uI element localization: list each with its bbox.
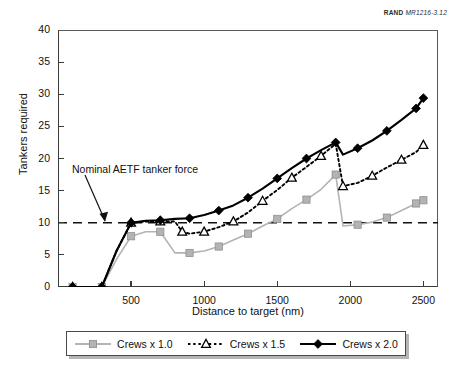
y-tick-mark bbox=[58, 222, 64, 223]
y-tick-label: 20 bbox=[20, 152, 50, 164]
x-tick-mark bbox=[423, 281, 424, 287]
data-marker bbox=[215, 243, 222, 250]
y-tick-label: 30 bbox=[20, 87, 50, 99]
data-marker bbox=[229, 217, 238, 225]
y-tick-label: 15 bbox=[20, 184, 50, 196]
y-tick-mark bbox=[58, 158, 64, 159]
data-marker bbox=[412, 200, 419, 207]
legend-swatch bbox=[299, 338, 337, 350]
x-tick-label: 500 bbox=[101, 294, 161, 306]
y-tick-label: 40 bbox=[20, 23, 50, 35]
y-tick-mark bbox=[58, 94, 64, 95]
x-tick-label: 2500 bbox=[393, 294, 453, 306]
data-marker bbox=[274, 215, 281, 222]
data-marker bbox=[354, 221, 361, 228]
annotation-arrow-head bbox=[100, 212, 109, 222]
y-tick-mark bbox=[58, 190, 64, 191]
data-marker bbox=[214, 206, 223, 215]
data-marker bbox=[353, 144, 362, 153]
data-marker bbox=[157, 228, 164, 235]
legend-item[interactable]: Crews x 1.0 bbox=[74, 338, 172, 350]
chart-legend: Crews x 1.0Crews x 1.5Crews x 2.0 bbox=[66, 331, 406, 356]
data-marker bbox=[186, 249, 193, 256]
data-marker bbox=[383, 214, 390, 221]
y-tick-label: 25 bbox=[20, 119, 50, 131]
credit-code: MR1216-3.12 bbox=[405, 9, 447, 16]
y-tick-label: 5 bbox=[20, 248, 50, 260]
legend-label: Crews x 1.0 bbox=[117, 338, 172, 350]
chart-canvas bbox=[58, 30, 438, 287]
x-tick-mark bbox=[277, 281, 278, 287]
x-tick-mark bbox=[130, 281, 131, 287]
data-marker bbox=[420, 197, 427, 204]
y-tick-mark bbox=[58, 62, 64, 63]
legend-swatch bbox=[187, 338, 225, 350]
x-tick-mark bbox=[204, 281, 205, 287]
series-crews-x-2-0 bbox=[68, 94, 428, 287]
y-tick-mark bbox=[58, 126, 64, 127]
credit-rand: RAND bbox=[384, 9, 404, 16]
x-tick-label: 1500 bbox=[247, 294, 307, 306]
y-tick-mark bbox=[58, 254, 64, 255]
data-marker bbox=[368, 171, 377, 179]
data-marker bbox=[303, 196, 310, 203]
data-marker bbox=[90, 340, 97, 347]
y-tick-label: 0 bbox=[20, 280, 50, 292]
legend-label: Crews x 2.0 bbox=[342, 338, 397, 350]
y-tick-label: 10 bbox=[20, 216, 50, 228]
y-tick-label: 35 bbox=[20, 55, 50, 67]
data-marker bbox=[419, 140, 428, 148]
legend-label: Crews x 1.5 bbox=[230, 338, 285, 350]
data-marker bbox=[314, 339, 323, 348]
legend-item[interactable]: Crews x 1.5 bbox=[187, 338, 285, 350]
source-credit: RAND MR1216-3.12 bbox=[0, 9, 447, 16]
series-crews-x-1-0 bbox=[69, 171, 427, 287]
x-axis-label: Distance to target (nm) bbox=[58, 305, 438, 317]
x-tick-label: 2000 bbox=[320, 294, 380, 306]
data-marker bbox=[332, 171, 339, 178]
annotation-label: Nominal AETF tanker force bbox=[72, 163, 198, 175]
legend-item[interactable]: Crews x 2.0 bbox=[299, 338, 397, 350]
series-line bbox=[73, 98, 424, 287]
x-tick-mark bbox=[350, 281, 351, 287]
chart-page: RAND MR1216-3.12 Tankers required Distan… bbox=[0, 0, 458, 369]
data-marker bbox=[127, 233, 134, 240]
data-marker bbox=[185, 214, 194, 223]
data-marker bbox=[244, 230, 251, 237]
legend-swatch bbox=[74, 338, 112, 350]
x-tick-label: 1000 bbox=[174, 294, 234, 306]
